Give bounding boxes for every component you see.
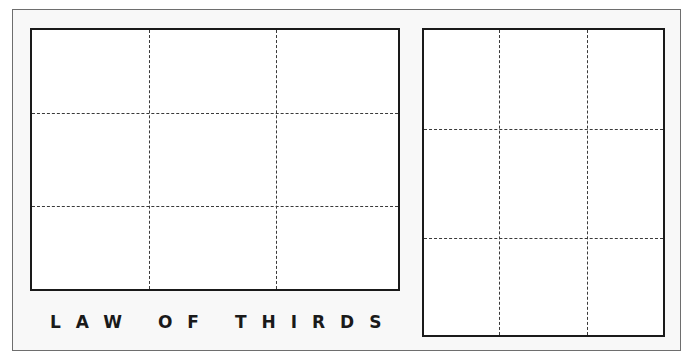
horizontal-third-line-2 [32, 206, 398, 207]
vertical-third-line-1 [499, 30, 500, 335]
horizontal-third-line-1 [424, 129, 663, 130]
diagram-title: LAW OF THIRDS [50, 312, 380, 332]
landscape-frame [30, 28, 400, 291]
horizontal-third-line-1 [32, 113, 398, 114]
portrait-frame [422, 28, 665, 337]
vertical-third-line-1 [149, 30, 150, 289]
horizontal-third-line-2 [424, 238, 663, 239]
vertical-third-line-2 [276, 30, 277, 289]
vertical-third-line-2 [587, 30, 588, 335]
